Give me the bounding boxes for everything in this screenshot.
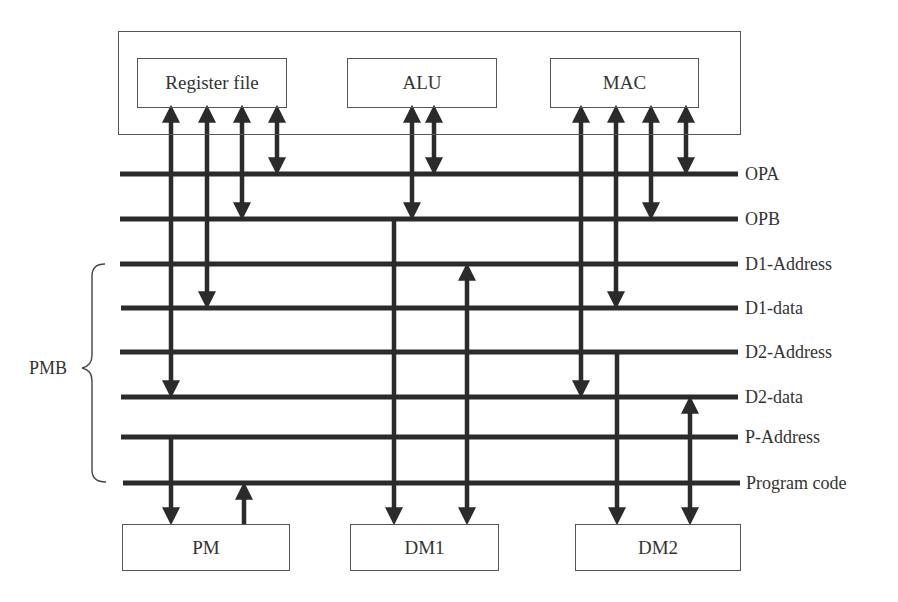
bus-label-d2-data: D2-data [745,388,803,406]
pmb-group-label: PMB [29,359,67,377]
mac-box: MAC [550,58,699,108]
dm1-label: DM1 [404,537,444,559]
alu-box: ALU [347,58,497,108]
pm-box: PM [122,524,290,571]
bus-label-opb: OPB [745,210,780,228]
register-file-box: Register file [137,58,287,108]
alu-label: ALU [402,72,441,94]
bus-label-d1-data: D1-data [745,299,803,317]
pm-label: PM [192,537,219,559]
bus-label-program-code: Program code [746,474,846,492]
register-file-label: Register file [165,72,258,94]
dm2-label: DM2 [638,537,678,559]
dm1-box: DM1 [350,524,499,571]
pmb-brace [82,264,106,482]
bus-lines [120,174,740,483]
bus-label-opa: OPA [745,165,779,183]
mac-label: MAC [603,72,646,94]
bus-label-p-address: P-Address [745,428,820,446]
bus-label-d1-address: D1-Address [745,255,832,273]
bus-label-d2-address: D2-Address [745,343,832,361]
dm2-box: DM2 [575,524,741,571]
